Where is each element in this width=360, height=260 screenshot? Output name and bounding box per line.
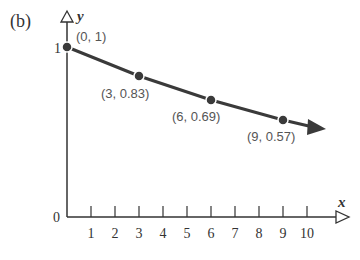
svg-text:3: 3 bbox=[136, 226, 143, 241]
svg-text:5: 5 bbox=[184, 226, 191, 241]
svg-text:6: 6 bbox=[208, 226, 215, 241]
chart: (b) y x 0 1 1 2 3 4 5 6 7 8 9 10 bbox=[0, 0, 360, 260]
data-point-1 bbox=[134, 71, 144, 81]
x-axis-label: x bbox=[337, 194, 346, 210]
point-label-1: (3, 0.83) bbox=[101, 86, 149, 101]
y-axis-label: y bbox=[75, 8, 84, 24]
x-ticks bbox=[91, 206, 307, 217]
svg-text:2: 2 bbox=[112, 226, 119, 241]
point-label-0: (0, 1) bbox=[76, 29, 106, 44]
svg-text:1: 1 bbox=[88, 226, 95, 241]
line-arrowhead-icon bbox=[307, 119, 326, 135]
point-label-2: (6, 0.69) bbox=[172, 109, 220, 124]
data-point-2 bbox=[206, 95, 216, 105]
svg-text:9: 9 bbox=[280, 226, 287, 241]
data-point-0 bbox=[62, 42, 72, 52]
svg-text:8: 8 bbox=[256, 226, 263, 241]
svg-text:4: 4 bbox=[160, 226, 167, 241]
y-tick-1: 1 bbox=[54, 41, 61, 56]
x-tick-labels: 1 2 3 4 5 6 7 8 9 10 bbox=[88, 226, 315, 241]
svg-text:10: 10 bbox=[300, 226, 314, 241]
x-axis-arrow-icon bbox=[336, 211, 349, 223]
y-tick-0: 0 bbox=[53, 210, 60, 225]
point-label-3: (9, 0.57) bbox=[247, 129, 295, 144]
data-point-3 bbox=[278, 115, 288, 125]
y-axis-arrow-icon bbox=[61, 11, 73, 22]
svg-text:7: 7 bbox=[232, 226, 239, 241]
panel-label: (b) bbox=[10, 11, 31, 32]
